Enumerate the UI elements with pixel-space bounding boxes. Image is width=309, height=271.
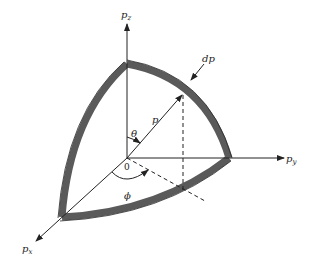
px-label: px bbox=[22, 243, 32, 256]
pz-label: pz bbox=[121, 9, 131, 22]
dp-arrow bbox=[191, 64, 204, 80]
diagram-canvas: pz py px dp p θ ϕ 0 bbox=[0, 0, 309, 271]
origin-label: 0 bbox=[124, 162, 130, 172]
phi-arc bbox=[112, 170, 148, 179]
radius-vector bbox=[127, 95, 182, 158]
phi-label: ϕ bbox=[124, 190, 131, 201]
theta-label: θ bbox=[131, 128, 137, 139]
px-axis bbox=[36, 158, 127, 241]
shell-diagram: pz py px dp p θ ϕ 0 bbox=[0, 0, 309, 271]
dp-label: dp bbox=[202, 53, 215, 64]
py-label: py bbox=[286, 153, 297, 166]
p-label: p bbox=[152, 114, 159, 125]
